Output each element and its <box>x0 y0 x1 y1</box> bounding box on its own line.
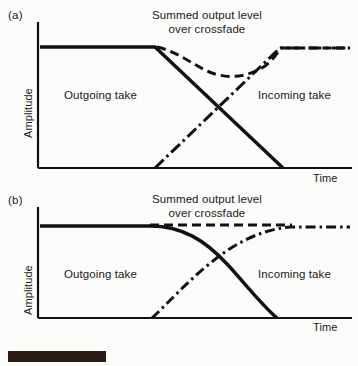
panel-a-outgoing-take-label: Outgoing take <box>64 89 137 101</box>
panel-b-y-axis-label: Amplitude <box>22 265 34 315</box>
panel-a-y-axis-label: Amplitude <box>22 88 34 138</box>
panel-b-x-axis-label: Time <box>313 321 337 333</box>
panel-b-annotation: Summed output level over crossfade <box>152 192 262 221</box>
crossfade-figure: (a) Summed output level over crossfade O… <box>0 0 358 366</box>
panel-a-annotation-line2: over crossfade <box>152 22 262 36</box>
panel-a-x-axis-label: Time <box>313 172 337 184</box>
bottom-black-bar <box>8 351 106 362</box>
panel-b-equal-power-crossfade: (b) Summed output level over crossfade O… <box>0 185 358 345</box>
panel-b-tag: (b) <box>8 194 23 206</box>
panel-a-tag: (a) <box>8 9 23 21</box>
incoming-take-curve-a <box>155 48 350 168</box>
panel-b-annotation-line1: Summed output level <box>152 192 262 206</box>
summed-output-curve-a <box>157 47 350 76</box>
outgoing-take-curve-a <box>40 47 283 168</box>
panel-a-annotation-line1: Summed output level <box>152 8 262 22</box>
panel-a-annotation: Summed output level over crossfade <box>152 8 262 37</box>
panel-a-linear-crossfade: (a) Summed output level over crossfade O… <box>0 0 358 190</box>
panel-b-annotation-line2: over crossfade <box>152 206 262 220</box>
panel-b-incoming-take-label: Incoming take <box>258 268 331 280</box>
panel-b-outgoing-take-label: Outgoing take <box>64 268 137 280</box>
panel-a-incoming-take-label: Incoming take <box>258 89 331 101</box>
